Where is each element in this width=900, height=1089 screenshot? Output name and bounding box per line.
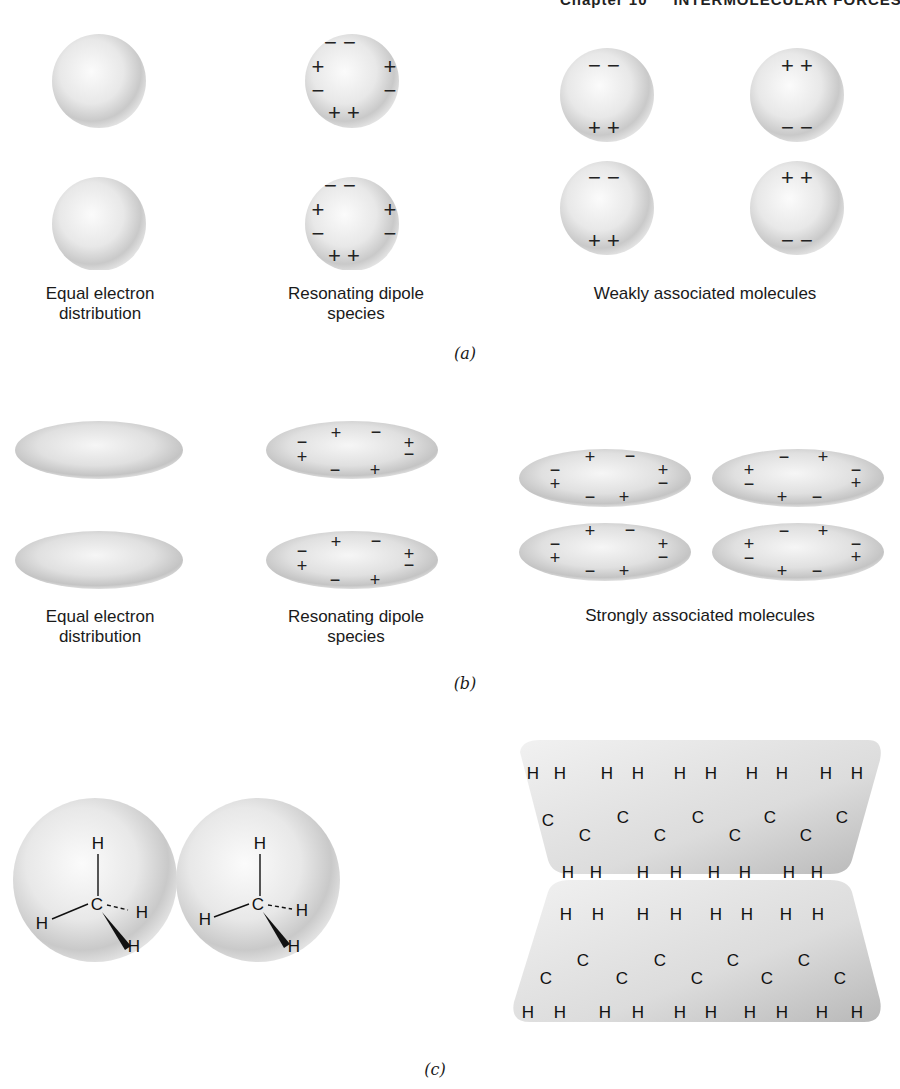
svg-text:− −: − −: [781, 228, 813, 253]
svg-text:C: C: [617, 808, 629, 827]
svg-text:−: −: [330, 570, 341, 590]
resonating-sphere: − − ++ −− + +: [305, 30, 399, 128]
part-b-illustration: −+−+ +− −+ −+−+ +− −+ −+−+ +− −+ +−+− −+…: [0, 400, 900, 600]
svg-text:+: +: [550, 548, 561, 568]
svg-text:H: H: [851, 1003, 863, 1022]
svg-text:H: H: [820, 764, 832, 783]
svg-text:H: H: [710, 905, 722, 924]
svg-text:−: −: [585, 561, 596, 581]
methane-molecule: H C H H H: [176, 798, 340, 962]
svg-text:C: C: [727, 951, 739, 970]
svg-text:− −: − −: [781, 115, 813, 140]
svg-text:H: H: [851, 764, 863, 783]
svg-text:+: +: [585, 447, 596, 467]
svg-text:C: C: [800, 826, 812, 845]
svg-text:−: −: [312, 221, 325, 246]
resonating-ellipsoid: −+−+ +− −+: [266, 531, 438, 590]
svg-text:H: H: [199, 910, 211, 929]
svg-text:−: −: [404, 555, 415, 575]
svg-text:−: −: [744, 474, 755, 494]
neutral-ellipsoid: [15, 531, 183, 589]
svg-text:C: C: [577, 951, 589, 970]
svg-text:+ +: + +: [328, 100, 360, 125]
svg-text:C: C: [691, 969, 703, 988]
caption-equal-b: Equal electron distribution: [20, 607, 180, 647]
alkane-chain-lower: HH HH HH HH CCC CCC CCC HH HH HH HH HH: [513, 880, 880, 1022]
svg-text:+: +: [777, 561, 788, 581]
svg-text:H: H: [674, 764, 686, 783]
svg-text:− −: − −: [588, 53, 620, 78]
svg-text:H: H: [670, 905, 682, 924]
svg-text:H: H: [783, 863, 795, 882]
neutral-sphere: [52, 177, 146, 270]
svg-text:+: +: [370, 460, 381, 480]
svg-text:+ +: + +: [588, 228, 620, 253]
svg-text:−: −: [625, 446, 636, 466]
svg-text:C: C: [798, 951, 810, 970]
svg-text:+: +: [619, 487, 630, 507]
caption-line: distribution: [20, 304, 180, 324]
svg-text:+: +: [384, 197, 397, 222]
svg-text:−: −: [384, 221, 397, 246]
svg-text:H: H: [562, 863, 574, 882]
svg-text:H: H: [705, 1003, 717, 1022]
svg-text:− −: − −: [324, 173, 356, 198]
svg-text:−: −: [330, 460, 341, 480]
svg-text:H: H: [776, 1003, 788, 1022]
svg-text:H: H: [560, 905, 572, 924]
svg-text:+: +: [384, 54, 397, 79]
caption-line: Equal electron: [20, 607, 180, 627]
svg-text:C: C: [834, 969, 846, 988]
svg-text:H: H: [632, 764, 644, 783]
svg-text:−: −: [779, 447, 790, 467]
svg-text:C: C: [836, 808, 848, 827]
svg-text:H: H: [527, 764, 539, 783]
weakly-associated-group: − −+ + + +− − − −+ + + +− −: [560, 48, 844, 255]
svg-text:+: +: [818, 447, 829, 467]
figure-part-c: H C H H H H C H H H HH HH: [0, 720, 900, 1064]
svg-text:H: H: [637, 905, 649, 924]
figure-part-a: − − ++ −− + + − − ++ −− + + − −+ + + +− …: [0, 0, 900, 274]
caption-line: species: [266, 304, 446, 324]
svg-text:H: H: [592, 905, 604, 924]
caption-equal-a: Equal electron distribution: [20, 284, 180, 324]
svg-text:+ +: + +: [781, 53, 813, 78]
alkane-chain-upper: HH HH HH HH HH CCC CCC CCC HH HH HH HH: [520, 740, 881, 882]
svg-text:C: C: [616, 969, 628, 988]
figure-part-b: −+−+ +− −+ −+−+ +− −+ −+−+ +− −+ +−+− −+…: [0, 400, 900, 604]
svg-text:+: +: [550, 474, 561, 494]
svg-text:+ +: + +: [588, 115, 620, 140]
svg-text:H: H: [708, 863, 720, 882]
svg-text:+: +: [777, 487, 788, 507]
svg-text:C: C: [729, 826, 741, 845]
svg-text:− −: − −: [588, 165, 620, 190]
svg-text:C: C: [654, 826, 666, 845]
svg-text:C: C: [542, 811, 554, 830]
svg-text:−: −: [744, 548, 755, 568]
svg-text:H: H: [92, 834, 104, 853]
caption-resonating-b: Resonating dipole species: [266, 607, 446, 647]
caption-line: Resonating dipole: [266, 284, 446, 304]
svg-text:H: H: [746, 764, 758, 783]
svg-text:C: C: [692, 808, 704, 827]
svg-text:+: +: [585, 521, 596, 541]
svg-text:H: H: [590, 863, 602, 882]
resonating-ellipsoid: −+−+ +− −+: [266, 421, 438, 480]
svg-text:H: H: [776, 764, 788, 783]
caption-line: distribution: [20, 627, 180, 647]
resonating-sphere: − − ++ −− + +: [305, 173, 399, 270]
svg-text:−: −: [585, 487, 596, 507]
svg-text:−: −: [371, 422, 382, 442]
svg-text:H: H: [637, 863, 649, 882]
svg-text:H: H: [554, 1003, 566, 1022]
svg-text:−: −: [658, 547, 669, 567]
svg-text:C: C: [764, 808, 776, 827]
svg-text:C: C: [579, 826, 591, 845]
svg-text:H: H: [522, 1003, 534, 1022]
caption-strongly-associated: Strongly associated molecules: [555, 606, 845, 626]
svg-text:−: −: [384, 78, 397, 103]
svg-text:H: H: [705, 764, 717, 783]
svg-text:+: +: [851, 473, 862, 493]
part-a-illustration: − − ++ −− + + − − ++ −− + + − −+ + + +− …: [0, 0, 900, 270]
svg-text:+: +: [312, 54, 325, 79]
